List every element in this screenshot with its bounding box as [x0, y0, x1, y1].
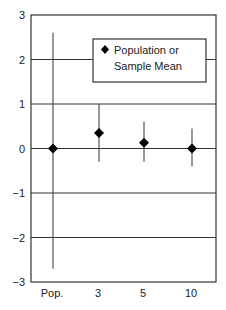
- y-tick-label: 3: [19, 9, 25, 21]
- y-tick-label: 2: [19, 54, 25, 66]
- legend: Population or Sample Mean: [93, 39, 206, 82]
- x-tick-label: 5: [140, 287, 146, 299]
- diamond-marker-icon: [139, 138, 149, 148]
- x-tick-label: 10: [185, 287, 197, 299]
- chart-canvas: 3210−1−2−3 Pop.3510 Population or Sample…: [0, 0, 226, 310]
- y-tick-label: 0: [19, 143, 25, 155]
- diamond-marker-icon: [187, 144, 197, 154]
- y-tick-label: −2: [12, 232, 25, 244]
- diamond-marker-icon: [48, 144, 58, 154]
- y-tick-label: 1: [19, 98, 25, 110]
- y-tick-label: −1: [12, 187, 25, 199]
- x-tick-label: 3: [95, 287, 101, 299]
- x-axis-tick-labels: Pop.3510: [41, 287, 197, 299]
- data-point: [48, 33, 58, 269]
- y-axis-tick-labels: 3210−1−2−3: [12, 9, 25, 288]
- diamond-marker-icon: [94, 128, 104, 138]
- data-point: [187, 128, 197, 166]
- y-tick-label: −3: [12, 276, 25, 288]
- x-tick-label: Pop.: [41, 287, 64, 299]
- data-point: [139, 122, 149, 162]
- data-point: [94, 104, 104, 162]
- legend-label-line1: Population or: [114, 44, 179, 56]
- legend-label-line2: Sample Mean: [114, 60, 182, 72]
